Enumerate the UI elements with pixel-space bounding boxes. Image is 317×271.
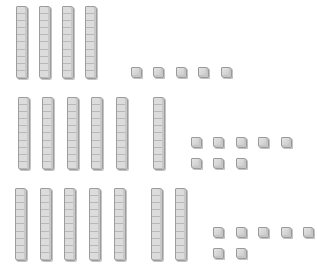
tens-rod xyxy=(15,188,27,261)
tens-rod xyxy=(18,97,30,170)
unit-cube xyxy=(213,158,224,169)
tens-rod xyxy=(39,6,51,79)
tens-rod xyxy=(67,97,79,170)
unit-cube xyxy=(236,137,247,148)
unit-cube xyxy=(258,137,269,148)
unit-cube xyxy=(176,67,187,78)
unit-cube xyxy=(213,248,224,259)
unit-cube xyxy=(213,227,224,238)
unit-cube xyxy=(236,248,247,259)
tens-rod xyxy=(85,6,97,79)
unit-cube xyxy=(303,227,314,238)
tens-rod xyxy=(153,97,165,170)
unit-cube xyxy=(281,137,292,148)
unit-cube xyxy=(153,67,164,78)
tens-rod xyxy=(89,188,101,261)
tens-rod xyxy=(62,6,74,79)
tens-rod xyxy=(64,188,76,261)
unit-cube xyxy=(281,227,292,238)
tens-rod xyxy=(151,188,163,261)
unit-cube xyxy=(236,158,247,169)
unit-cube xyxy=(236,227,247,238)
tens-rod xyxy=(42,97,54,170)
unit-cube xyxy=(198,67,209,78)
tens-rod xyxy=(114,188,126,261)
tens-rod xyxy=(91,97,103,170)
tens-rod xyxy=(175,188,187,261)
unit-cube xyxy=(191,158,202,169)
tens-rod xyxy=(40,188,52,261)
unit-cube xyxy=(221,67,232,78)
unit-cube xyxy=(258,227,269,238)
unit-cube xyxy=(191,137,202,148)
unit-cube xyxy=(131,67,142,78)
tens-rod xyxy=(16,6,28,79)
tens-rod xyxy=(116,97,128,170)
unit-cube xyxy=(213,137,224,148)
